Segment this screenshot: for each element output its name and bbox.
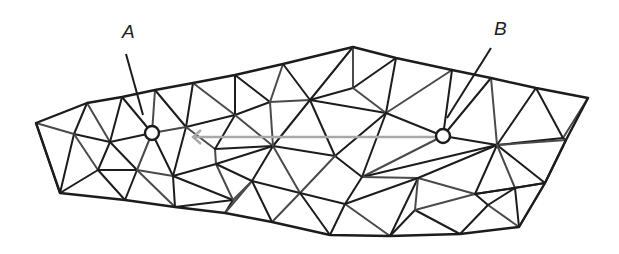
mesh-edge [345,204,390,236]
mesh-edge [125,170,137,200]
mesh-edge [536,88,563,138]
mesh-edge [235,115,273,146]
mesh-edge [330,204,345,235]
mesh-edge [443,136,497,145]
mesh-edge [225,181,252,213]
mesh-edge [235,75,270,102]
mesh-edge [98,170,125,200]
mesh-boundary [36,47,588,236]
mesh-edge [335,156,362,177]
mesh-edge [415,210,460,234]
mesh-edge [252,181,272,222]
mesh-edge [283,64,310,100]
mesh-edge [353,58,396,88]
mesh-edge [270,100,310,102]
mesh-edge [155,90,186,127]
mesh-edge [475,194,488,205]
mesh-edge [60,170,98,193]
mesh-edge [270,102,273,146]
mesh-diagram: A B [0,0,619,254]
mesh-edge [386,58,396,113]
mesh-edge [272,193,300,222]
mesh-edge [460,205,488,234]
mesh-edge [110,97,122,142]
mesh-edge [475,183,545,194]
mesh-edge [175,200,233,207]
mesh-edge [273,146,300,193]
mesh-edge [491,78,497,145]
mesh-edge [110,142,137,170]
mesh-edge [310,88,353,100]
mesh-edge [390,210,415,236]
mesh-edge [386,70,452,113]
mesh-edge [415,194,475,210]
mesh-edge [173,127,186,176]
mesh-edge [488,205,519,227]
mesh-edge [36,123,74,134]
mesh-edge [362,177,418,178]
node-marker-a [145,126,159,140]
mesh-edges [36,47,588,236]
mesh-edge [310,100,335,156]
node-markers [145,126,450,143]
mesh-edge [252,181,300,193]
mesh-edge [215,149,216,164]
mesh-edge [386,113,443,136]
mesh-edge [310,100,386,113]
mesh-edge [60,134,74,193]
mesh-edge [173,164,216,176]
path-line-a-to-b [193,130,436,144]
node-marker-b [436,129,450,143]
mesh-edge [87,103,110,142]
label-a: A [121,21,135,42]
mesh-edge [186,115,235,127]
mesh-edge [300,156,335,193]
mesh-edge [98,142,110,170]
mesh-edge [270,64,283,102]
mesh-edge [186,83,193,127]
mesh-edge [273,146,335,156]
mesh-edge [235,102,270,115]
mesh-edge [497,88,536,145]
mesh-edge [418,178,475,194]
label-b: B [494,18,507,39]
mesh-edge [193,83,235,115]
mesh-edge [273,100,310,146]
leader-line-b [447,48,491,118]
mesh-edge [173,176,175,207]
mesh-edge [515,188,519,227]
mesh-edge [216,164,252,181]
